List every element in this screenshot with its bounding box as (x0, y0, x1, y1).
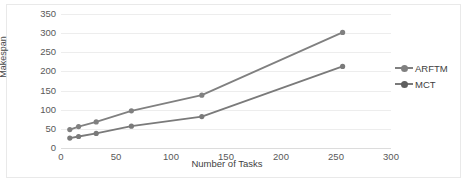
y-tick-150: 150 (40, 86, 56, 96)
legend-marker-mct-icon (395, 79, 413, 89)
x-tick-100: 100 (163, 152, 179, 162)
data-point (76, 134, 81, 139)
y-tick-250: 250 (40, 47, 56, 57)
chart-legend: ARFTM MCT (395, 60, 465, 92)
legend-label-arftm: ARFTM (415, 63, 448, 74)
y-tick-0: 0 (51, 143, 56, 153)
data-point (129, 108, 134, 113)
data-point (76, 124, 81, 129)
data-point (199, 93, 204, 98)
data-point (129, 124, 134, 129)
x-tick-250: 250 (328, 152, 344, 162)
plot-area (61, 14, 391, 148)
x-axis-title: Number of Tasks (191, 158, 262, 169)
legend-item-arftm[interactable]: ARFTM (395, 60, 465, 76)
data-point (67, 127, 72, 132)
x-axis-line (61, 148, 391, 149)
chart-container: 350 300 250 200 150 100 50 0 Makespan 0 … (0, 0, 469, 186)
y-axis-title: Makespan (0, 36, 8, 78)
x-tick-300: 300 (383, 152, 399, 162)
x-tick-50: 50 (111, 152, 122, 162)
legend-label-mct: MCT (415, 79, 436, 90)
data-point (199, 114, 204, 119)
y-tick-100: 100 (40, 105, 56, 115)
y-tick-50: 50 (45, 124, 56, 134)
x-tick-0: 0 (58, 152, 63, 162)
data-point (67, 135, 72, 140)
legend-item-mct[interactable]: MCT (395, 76, 465, 92)
y-tick-200: 200 (40, 66, 56, 76)
data-point (340, 30, 345, 35)
series-mct-line (67, 64, 345, 141)
data-point (340, 64, 345, 69)
legend-marker-arftm-icon (395, 63, 413, 73)
y-tick-300: 300 (40, 28, 56, 38)
y-tick-350: 350 (40, 9, 56, 19)
data-point (94, 119, 99, 124)
y-axis-tick-labels: 350 300 250 200 150 100 50 0 (0, 0, 56, 186)
series-plot (61, 14, 391, 148)
data-point (94, 131, 99, 136)
x-tick-200: 200 (273, 152, 289, 162)
